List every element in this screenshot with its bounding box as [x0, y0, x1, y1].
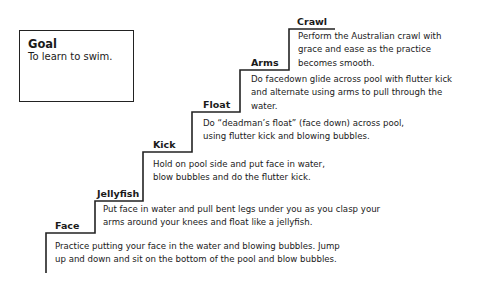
step-label-float: Float	[203, 99, 230, 110]
goal-title: Goal	[28, 37, 57, 51]
step-label-kick: Kick	[153, 139, 176, 150]
step-label-arms: Arms	[251, 57, 279, 68]
goal-box: Goal To learn to swim.	[19, 30, 134, 102]
step-desc-line: Perform the Australian crawl with	[298, 30, 441, 43]
step-desc-line: blow bubbles and do the flutter kick.	[153, 171, 325, 184]
step-desc-kick: Hold on pool side and put face in water,…	[153, 158, 325, 185]
step-label-crawl: Crawl	[297, 16, 327, 27]
goal-text: To learn to swim.	[28, 51, 113, 62]
step-desc-line: Do “deadman’s float” (face down) across …	[203, 117, 404, 130]
step-desc-line: using flutter kick and blowing bubbles.	[203, 130, 404, 143]
step-desc-line: becomes smooth.	[298, 57, 441, 70]
step-label-face: Face	[55, 220, 79, 231]
step-desc-line: Put face in water and pull bent legs und…	[103, 203, 380, 216]
step-desc-line: Hold on pool side and put face in water,	[153, 158, 325, 171]
step-desc-jellyfish: Put face in water and pull bent legs und…	[103, 203, 380, 230]
step-label-jellyfish: Jellyfish	[97, 188, 139, 199]
step-desc-arms: Do facedown glide across pool with flutt…	[251, 73, 452, 113]
step-desc-crawl: Perform the Australian crawl with grace …	[298, 30, 441, 70]
step-desc-line: grace and ease as the practice	[298, 43, 441, 56]
step-desc-line: up and down and sit on the bottom of the…	[55, 253, 340, 266]
step-desc-float: Do “deadman’s float” (face down) across …	[203, 117, 404, 144]
step-desc-line: and alternate using arms to pull through…	[251, 86, 452, 99]
step-desc-line: water.	[251, 100, 452, 113]
step-desc-line: Practice putting your face in the water …	[55, 240, 340, 253]
step-desc-face: Practice putting your face in the water …	[55, 240, 340, 267]
step-desc-line: Do facedown glide across pool with flutt…	[251, 73, 452, 86]
step-desc-line: arms around your knees and float like a …	[103, 216, 380, 229]
